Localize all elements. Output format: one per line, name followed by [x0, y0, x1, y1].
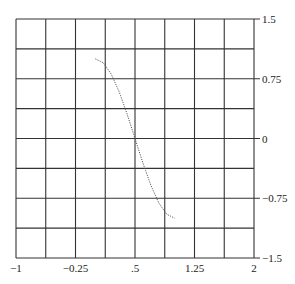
y-axis-tick-labels: 1.50.750−0.75−1.5 — [254, 13, 288, 264]
x-axis-tick-labels: −1−0.25.51.252 — [10, 262, 257, 274]
y-tick-label: −0.75 — [262, 192, 288, 204]
x-tick-label: 1.25 — [185, 262, 205, 274]
chart: −1−0.25.51.252 1.50.750−0.75−1.5 — [0, 0, 295, 284]
x-tick-label: 2 — [251, 262, 257, 274]
x-tick-label: −1 — [10, 262, 22, 274]
y-tick-label: 0.75 — [262, 73, 282, 85]
x-tick-label: .5 — [131, 262, 140, 274]
x-tick-label: −0.25 — [63, 262, 89, 274]
y-tick-label: 0 — [262, 133, 268, 145]
y-tick-label: 1.5 — [262, 13, 276, 25]
y-tick-label: −1.5 — [262, 252, 282, 264]
